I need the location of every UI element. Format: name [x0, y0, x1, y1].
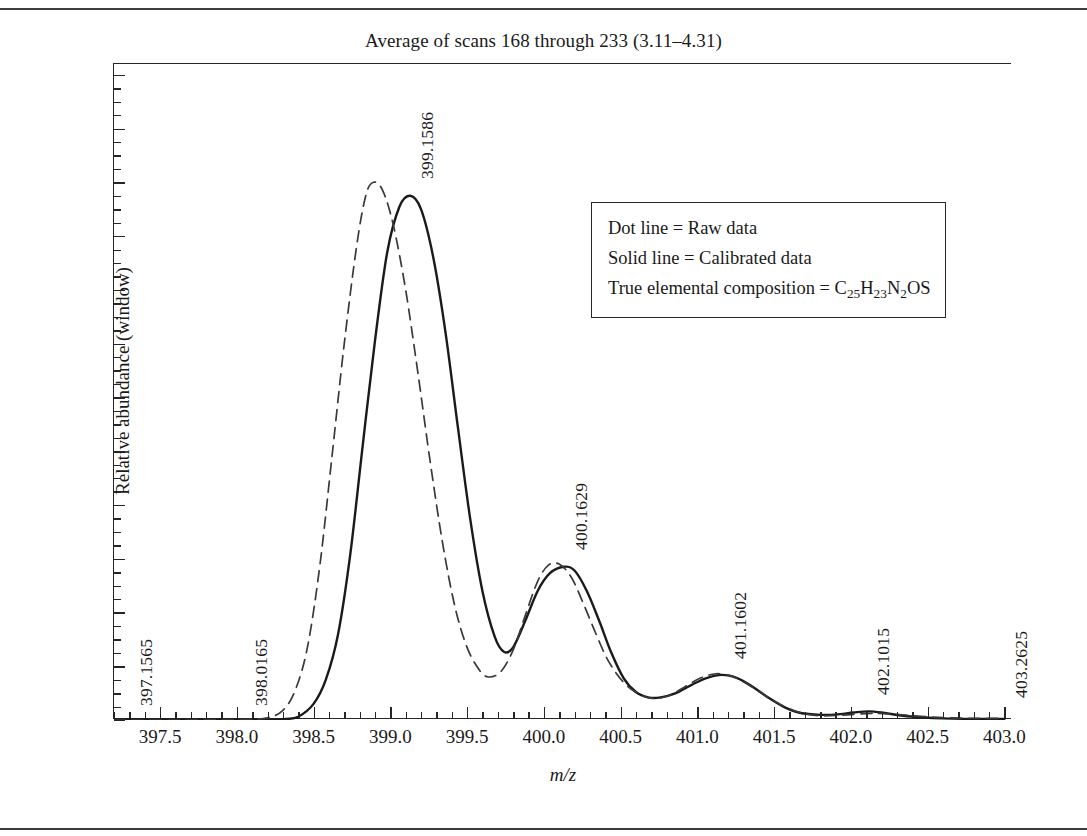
- x-major-tick: [390, 707, 391, 718]
- x-minor-tick: [559, 712, 560, 718]
- y-minor-tick: [114, 88, 121, 89]
- y-minor-tick: [114, 223, 121, 224]
- x-minor-tick: [882, 712, 883, 718]
- x-minor-tick: [743, 712, 744, 718]
- x-minor-tick: [789, 712, 790, 718]
- composition-n: N: [887, 278, 900, 298]
- y-minor-tick: [114, 317, 121, 318]
- y-minor-tick: [114, 478, 121, 479]
- y-minor-tick: [114, 639, 121, 640]
- y-minor-tick: [114, 693, 121, 694]
- y-minor-tick: [114, 465, 121, 466]
- y-major-tick: [114, 182, 125, 183]
- y-minor-tick: [114, 303, 121, 304]
- y-major-tick: [114, 236, 125, 237]
- bottom-divider-rule: [0, 828, 1087, 830]
- y-minor-tick: [114, 545, 121, 546]
- y-major-tick: [114, 344, 125, 345]
- legend-item-calibrated: Solid line = Calibrated data: [608, 244, 929, 274]
- x-minor-tick: [175, 712, 176, 718]
- x-tick-label: 403.0: [944, 726, 1064, 748]
- x-major-tick: [774, 707, 775, 718]
- x-major-tick: [544, 707, 545, 718]
- y-minor-tick: [114, 357, 121, 358]
- x-minor-tick: [498, 712, 499, 718]
- x-minor-tick: [375, 712, 376, 718]
- y-minor-tick: [114, 276, 121, 277]
- y-minor-tick: [114, 680, 121, 681]
- spectrum-traces: [114, 64, 1012, 720]
- x-minor-tick: [667, 712, 668, 718]
- peak-label: 398.0165: [251, 639, 272, 706]
- x-minor-tick: [191, 712, 192, 718]
- x-minor-tick: [912, 712, 913, 718]
- y-major-tick: [114, 397, 125, 398]
- y-minor-tick: [114, 155, 121, 156]
- y-major-tick: [114, 666, 125, 667]
- legend-item-raw: Dot line = Raw data: [608, 214, 929, 244]
- top-divider-rule: [0, 8, 1087, 10]
- x-minor-tick: [759, 712, 760, 718]
- x-minor-tick: [835, 712, 836, 718]
- y-major-tick: [114, 505, 125, 506]
- y-major-tick: [114, 290, 125, 291]
- y-major-tick: [114, 720, 125, 721]
- y-minor-tick: [114, 653, 121, 654]
- peak-label: 402.1015: [873, 628, 894, 695]
- x-minor-tick: [575, 712, 576, 718]
- y-minor-tick: [114, 370, 121, 371]
- x-minor-tick: [421, 712, 422, 718]
- y-major-tick: [114, 129, 125, 130]
- x-minor-tick: [436, 712, 437, 718]
- legend-box: Dot line = Raw data Solid line = Calibra…: [591, 202, 946, 318]
- y-minor-tick: [114, 250, 121, 251]
- x-minor-tick: [590, 712, 591, 718]
- x-minor-tick: [989, 712, 990, 718]
- composition-sub-c: 25: [847, 286, 860, 301]
- x-minor-tick: [958, 712, 959, 718]
- x-minor-tick: [406, 712, 407, 718]
- x-minor-tick: [145, 712, 146, 718]
- x-major-tick: [697, 707, 698, 718]
- y-minor-tick: [114, 572, 121, 573]
- y-major-tick: [114, 559, 125, 560]
- x-axis-label: m/z: [114, 764, 1012, 786]
- peak-label: 403.2625: [1011, 631, 1032, 698]
- x-minor-tick: [114, 712, 115, 718]
- y-minor-tick: [114, 707, 121, 708]
- y-minor-tick: [114, 169, 121, 170]
- composition-sub-h: 23: [874, 286, 887, 301]
- y-minor-tick: [114, 102, 121, 103]
- x-minor-tick: [974, 712, 975, 718]
- y-major-tick: [114, 75, 125, 76]
- x-major-tick: [928, 707, 929, 718]
- y-minor-tick: [114, 599, 121, 600]
- x-minor-tick: [713, 712, 714, 718]
- composition-suffix: OS: [907, 278, 931, 298]
- x-minor-tick: [636, 712, 637, 718]
- y-minor-tick: [114, 586, 121, 587]
- peak-label: 399.1586: [417, 112, 438, 179]
- peak-label: 397.1565: [136, 639, 157, 706]
- x-minor-tick: [943, 712, 944, 718]
- x-minor-tick: [252, 712, 253, 718]
- x-minor-tick: [728, 712, 729, 718]
- y-minor-tick: [114, 424, 121, 425]
- x-minor-tick: [360, 712, 361, 718]
- x-minor-tick: [820, 712, 821, 718]
- mass-spectrum-figure: Average of scans 168 through 233 (3.11–4…: [0, 0, 1087, 836]
- x-major-tick: [237, 707, 238, 718]
- x-minor-tick: [268, 712, 269, 718]
- x-minor-tick: [298, 712, 299, 718]
- x-major-tick: [621, 707, 622, 718]
- y-minor-tick: [114, 263, 121, 264]
- x-major-tick: [1004, 707, 1005, 718]
- x-minor-tick: [897, 712, 898, 718]
- x-minor-tick: [651, 712, 652, 718]
- plot-area: Relative abundance (window) 0.00.10.20.3…: [113, 63, 1011, 719]
- x-minor-tick: [283, 712, 284, 718]
- x-major-tick: [467, 707, 468, 718]
- composition-h: H: [860, 278, 873, 298]
- x-minor-tick: [206, 712, 207, 718]
- y-minor-tick: [114, 411, 121, 412]
